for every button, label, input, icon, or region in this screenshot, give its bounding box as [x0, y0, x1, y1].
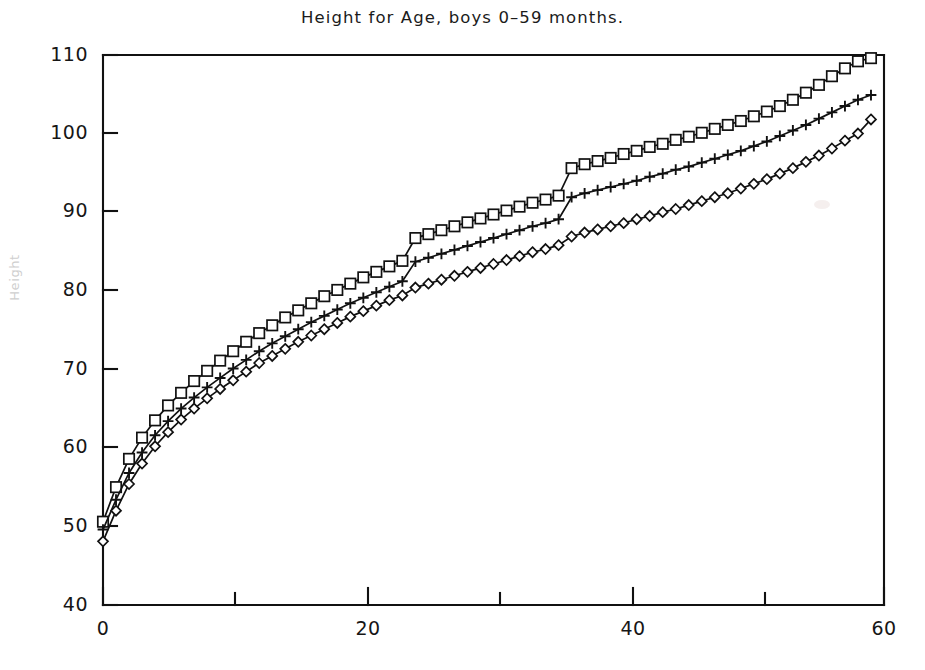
marker-plus [605, 182, 616, 193]
marker-plus [293, 324, 304, 335]
marker-open-square [775, 101, 785, 111]
marker-open-diamond [606, 221, 616, 231]
x-tick-20: 20 [338, 617, 398, 639]
marker-open-square [684, 132, 694, 142]
marker-open-square [697, 128, 707, 138]
marker-open-square [723, 120, 733, 130]
marker-open-square [137, 432, 147, 442]
marker-open-diamond [840, 136, 850, 146]
marker-plus [319, 310, 330, 321]
marker-open-square [215, 355, 225, 365]
marker-plus [644, 171, 655, 182]
y-tick-60: 60 [30, 435, 88, 457]
marker-open-diamond [827, 144, 837, 154]
marker-open-square [840, 63, 850, 73]
marker-plus [540, 218, 551, 229]
marker-open-square [436, 225, 446, 235]
marker-open-square [254, 328, 264, 338]
marker-plus [358, 292, 369, 303]
marker-plus [527, 221, 538, 232]
marker-open-square [866, 53, 876, 63]
marker-plus [553, 214, 564, 225]
marker-open-square [358, 272, 368, 282]
marker-open-diamond [736, 184, 746, 194]
marker-open-diamond [554, 240, 564, 250]
marker-open-square [631, 146, 641, 156]
marker-plus [449, 244, 460, 255]
marker-open-square [801, 88, 811, 98]
marker-plus [853, 94, 864, 105]
marker-open-diamond [410, 283, 420, 293]
marker-plus [306, 317, 317, 328]
marker-open-diamond [293, 337, 303, 347]
marker-open-square [605, 153, 615, 163]
marker-open-square [410, 233, 420, 243]
marker-open-square [189, 376, 199, 386]
marker-open-diamond [449, 271, 459, 281]
marker-open-square [671, 135, 681, 145]
marker-plus [696, 157, 707, 168]
marker-plus [761, 136, 772, 147]
marker-plus [814, 113, 825, 124]
data-series-layer [98, 53, 877, 546]
marker-open-diamond [814, 151, 824, 161]
chart-figure: Height for Age, boys 0–59 months. Height [0, 0, 925, 670]
marker-open-square [788, 95, 798, 105]
marker-open-diamond [801, 157, 811, 167]
marker-open-diamond [632, 214, 642, 224]
marker-plus [631, 175, 642, 186]
marker-open-square [371, 267, 381, 277]
marker-open-diamond [371, 301, 381, 311]
marker-open-square [749, 111, 759, 121]
marker-open-diamond [98, 536, 108, 546]
series-line-upper [103, 58, 871, 522]
marker-open-square [176, 388, 186, 398]
y-tick-50: 50 [30, 514, 88, 536]
marker-open-square [501, 205, 511, 215]
marker-plus [280, 331, 291, 342]
y-tick-100: 100 [30, 121, 88, 143]
marker-open-square [241, 337, 251, 347]
marker-plus [371, 287, 382, 298]
marker-open-square [150, 415, 160, 425]
marker-plus [332, 304, 343, 315]
marker-open-diamond [306, 331, 316, 341]
marker-open-square [423, 229, 433, 239]
marker-plus [748, 141, 759, 152]
marker-plus [436, 248, 447, 259]
x-tick-40: 40 [603, 617, 663, 639]
marker-open-diamond [749, 179, 759, 189]
marker-plus [384, 281, 395, 292]
marker-open-square [124, 454, 134, 464]
marker-open-diamond [345, 312, 355, 322]
marker-open-square [397, 256, 407, 266]
marker-open-diamond [684, 200, 694, 210]
marker-open-diamond [475, 263, 485, 273]
marker-open-square [645, 142, 655, 152]
marker-open-diamond [723, 188, 733, 198]
marker-open-diamond [436, 275, 446, 285]
marker-open-square [293, 305, 303, 315]
marker-open-diamond [254, 358, 264, 368]
marker-plus [709, 153, 720, 164]
marker-open-diamond [358, 306, 368, 316]
marker-plus [254, 346, 265, 357]
series-median [98, 90, 877, 535]
marker-plus [514, 225, 525, 236]
marker-open-diamond [489, 259, 499, 269]
marker-open-diamond [267, 351, 277, 361]
marker-open-diamond [462, 267, 472, 277]
marker-open-diamond [541, 244, 551, 254]
marker-plus [787, 125, 798, 136]
marker-open-square [762, 106, 772, 116]
marker-open-diamond [319, 324, 329, 334]
marker-open-square [228, 346, 238, 356]
marker-plus [488, 233, 499, 244]
marker-plus [774, 131, 785, 142]
marker-open-diamond [697, 196, 707, 206]
marker-open-diamond [228, 375, 238, 385]
marker-open-square [332, 285, 342, 295]
marker-plus [592, 185, 603, 196]
marker-plus [657, 168, 668, 179]
marker-open-diamond [515, 251, 525, 261]
